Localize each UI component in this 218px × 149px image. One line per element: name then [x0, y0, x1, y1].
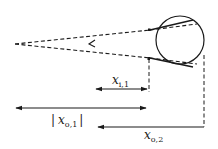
dashed-rays	[15, 24, 197, 64]
label-xi1: xi,1	[112, 73, 129, 89]
entry-marker-top	[148, 29, 151, 32]
label-xo2: xo,2	[144, 128, 163, 144]
label-xo1: |xo,1|	[51, 113, 83, 129]
ray-diagram: xi,1 |xo,1| xo,2	[0, 0, 218, 149]
image-chevron-icon	[89, 40, 95, 47]
projection-lines	[149, 55, 204, 127]
